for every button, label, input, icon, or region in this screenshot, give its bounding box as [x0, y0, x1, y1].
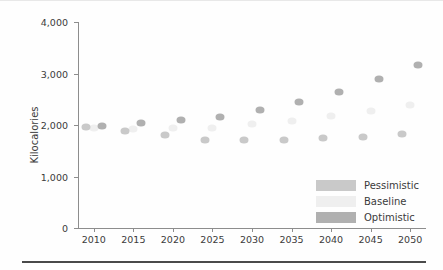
y-tick-label: 3,000: [41, 68, 68, 79]
data-point: [208, 124, 217, 131]
y-tick-label: 2,000: [41, 120, 68, 131]
data-point: [137, 120, 146, 127]
legend-label: Optimistic: [364, 212, 415, 223]
data-point: [248, 121, 257, 128]
x-tick-label: 2015: [121, 234, 145, 245]
y-axis-label: Kilocalories: [29, 106, 40, 163]
legend-item[interactable]: Optimistic: [316, 210, 428, 224]
y-tick: [74, 125, 78, 126]
y-tick: [74, 177, 78, 178]
x-tick: [133, 228, 134, 232]
data-point: [240, 136, 249, 143]
x-tick-label: 2025: [200, 234, 224, 245]
x-tick-label: 2030: [240, 234, 264, 245]
y-tick-label: 4,000: [41, 17, 68, 28]
data-point: [358, 133, 367, 140]
data-point: [216, 114, 225, 121]
x-tick: [371, 228, 372, 232]
x-tick: [212, 228, 213, 232]
chart-legend: PessimisticBaselineOptimistic: [316, 178, 428, 226]
y-axis-line: [78, 22, 79, 228]
data-point: [398, 131, 407, 138]
legend-label: Pessimistic: [364, 180, 419, 191]
data-point: [255, 107, 264, 114]
x-tick: [292, 228, 293, 232]
y-tick-label: 1,000: [41, 171, 68, 182]
x-tick-label: 2010: [82, 234, 106, 245]
data-point: [406, 101, 415, 108]
legend-swatch: [316, 180, 356, 191]
data-point: [295, 98, 304, 105]
legend-swatch: [316, 212, 356, 223]
data-point: [129, 126, 138, 133]
x-tick: [252, 228, 253, 232]
data-point: [176, 116, 185, 123]
data-point: [97, 122, 106, 129]
y-tick: [74, 22, 78, 23]
x-tick-label: 2035: [279, 234, 303, 245]
x-tick-label: 2040: [319, 234, 343, 245]
legend-swatch: [316, 196, 356, 207]
data-point: [168, 124, 177, 131]
y-tick: [74, 74, 78, 75]
data-point: [81, 124, 90, 131]
data-point: [414, 62, 423, 69]
data-point: [121, 127, 130, 134]
data-point: [287, 117, 296, 124]
legend-label: Baseline: [364, 196, 406, 207]
data-point: [327, 113, 336, 120]
x-tick-label: 2045: [359, 234, 383, 245]
x-tick: [173, 228, 174, 232]
bottom-divider: [22, 261, 426, 263]
x-tick-label: 2020: [161, 234, 185, 245]
y-tick-label: 0: [62, 223, 68, 234]
data-point: [200, 136, 209, 143]
data-point: [161, 131, 170, 138]
x-tick: [331, 228, 332, 232]
top-divider: [0, 0, 443, 1]
legend-item[interactable]: Pessimistic: [316, 178, 428, 192]
chart-figure: Kilocalories 01,0002,0003,0004,000 20102…: [0, 0, 443, 270]
data-point: [335, 88, 344, 95]
data-point: [279, 136, 288, 143]
x-tick: [410, 228, 411, 232]
data-point: [374, 75, 383, 82]
legend-item[interactable]: Baseline: [316, 194, 428, 208]
y-tick: [74, 228, 78, 229]
x-tick-label: 2050: [398, 234, 422, 245]
data-point: [366, 108, 375, 115]
x-tick: [94, 228, 95, 232]
data-point: [319, 135, 328, 142]
